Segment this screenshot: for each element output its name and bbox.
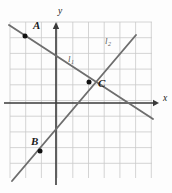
line-label-subscript-l2: 2: [108, 41, 111, 47]
point-label-B: B: [30, 135, 38, 147]
point-label-C: C: [98, 77, 106, 89]
point-A: [23, 34, 28, 39]
line-label-subscript-l1: 1: [71, 59, 74, 65]
point-C: [87, 80, 92, 85]
y-axis-label: y: [57, 6, 63, 16]
coordinate-plane-figure: x y l1l2ABC: [0, 0, 172, 193]
figure-canvas: x y l1l2ABC: [0, 0, 172, 193]
point-label-A: A: [32, 19, 40, 31]
point-B: [38, 149, 43, 154]
x-axis-label: x: [162, 93, 168, 103]
